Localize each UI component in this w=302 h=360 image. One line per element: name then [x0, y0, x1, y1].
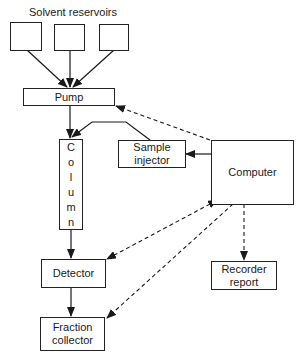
- column-letter: m: [66, 200, 75, 215]
- edge-injector-column: [72, 122, 150, 140]
- detector-label: Detector: [53, 267, 95, 280]
- solvent-reservoirs-title: Solvent reservoirs: [28, 6, 118, 19]
- edge-reservoir1-pump: [27, 50, 67, 87]
- fraction-collector-box: Fraction collector: [40, 317, 105, 351]
- column-letter: C: [67, 140, 75, 155]
- edge-computer-pump: [116, 106, 210, 140]
- column-letter: n: [68, 215, 74, 230]
- pump-label: Pump: [55, 91, 84, 104]
- column-label: C o l u m n: [66, 140, 75, 230]
- sample-injector-box: Sample injector: [118, 140, 186, 168]
- reservoir-box-2: [54, 24, 85, 51]
- edge-computer-detector: [107, 204, 210, 259]
- fraction-collector-label-1: Fraction: [53, 321, 93, 334]
- edge-reservoir3-pump: [73, 50, 114, 87]
- recorder-label-1: Recorder: [221, 263, 266, 276]
- sample-injector-label-1: Sample: [133, 141, 170, 154]
- sample-injector-label-2: injector: [134, 154, 169, 167]
- fraction-collector-label-2: collector: [52, 334, 93, 347]
- recorder-report-box: Recorder report: [211, 261, 277, 290]
- computer-box: Computer: [211, 140, 294, 205]
- recorder-label-2: report: [230, 276, 259, 289]
- detector-box: Detector: [41, 259, 106, 288]
- reservoir-box-1: [10, 22, 42, 51]
- column-letter: l: [70, 170, 72, 185]
- column-box: C o l u m n: [59, 139, 83, 230]
- pump-box: Pump: [23, 88, 115, 106]
- reservoir-box-3: [99, 24, 129, 51]
- computer-label: Computer: [228, 166, 276, 179]
- column-letter: u: [68, 185, 74, 200]
- column-letter: o: [68, 155, 74, 170]
